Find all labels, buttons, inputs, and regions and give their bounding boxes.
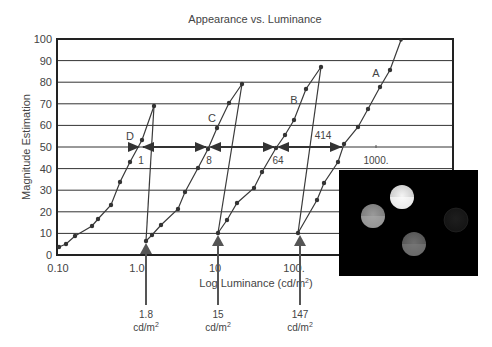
svg-text:10: 10 bbox=[40, 227, 52, 239]
svg-text:cd/m2: cd/m2 bbox=[205, 321, 231, 333]
y-tick-labels: 0 10 20 30 40 50 60 70 80 90 100 bbox=[34, 33, 52, 261]
svg-text:20: 20 bbox=[40, 206, 52, 218]
svg-text:1: 1 bbox=[138, 155, 144, 166]
svg-text:0: 0 bbox=[46, 249, 52, 261]
label-C: C bbox=[208, 112, 216, 124]
adaptation-arrows bbox=[140, 235, 306, 305]
svg-text:cd/m2: cd/m2 bbox=[287, 321, 313, 333]
svg-text:1000.: 1000. bbox=[363, 155, 388, 166]
svg-text:1.8: 1.8 bbox=[139, 309, 153, 320]
curve-labels: D C B A bbox=[126, 67, 380, 142]
svg-text:cd/m2: cd/m2 bbox=[133, 321, 159, 333]
x-tick-labels: 0.10 1.0 10 100. bbox=[47, 262, 304, 274]
label-A: A bbox=[372, 67, 380, 79]
svg-text:30: 30 bbox=[40, 184, 52, 196]
svg-text:40: 40 bbox=[40, 163, 52, 175]
svg-text:60: 60 bbox=[40, 119, 52, 131]
appearance-luminance-chart: Appearance vs. Luminance Magnitude Estim… bbox=[0, 0, 492, 347]
svg-text:64: 64 bbox=[272, 155, 284, 166]
svg-text:50: 50 bbox=[40, 141, 52, 153]
label-B: B bbox=[290, 94, 297, 106]
curve-B bbox=[218, 67, 321, 233]
svg-text:100: 100 bbox=[34, 33, 52, 45]
svg-text:8: 8 bbox=[206, 155, 212, 166]
inset-photo bbox=[339, 170, 478, 276]
curve-C bbox=[146, 84, 242, 241]
adaptation-labels: 1.8 cd/m2 15 cd/m2 147 cd/m2 bbox=[133, 309, 313, 333]
svg-text:70: 70 bbox=[40, 98, 52, 110]
disc-dark bbox=[444, 208, 468, 232]
svg-text:15: 15 bbox=[212, 309, 224, 320]
svg-text:80: 80 bbox=[40, 76, 52, 88]
return-B-A bbox=[298, 67, 321, 233]
label-D: D bbox=[126, 130, 134, 142]
svg-text:1.0: 1.0 bbox=[129, 262, 144, 274]
curve-D bbox=[59, 106, 154, 247]
x-axis-label: Log Luminance (cd/m2) bbox=[199, 277, 312, 289]
svg-text:90: 90 bbox=[40, 55, 52, 67]
chart-title: Appearance vs. Luminance bbox=[188, 13, 321, 25]
return-C-B bbox=[218, 84, 242, 233]
y-axis-label: Magnitude Estimation bbox=[20, 94, 32, 200]
svg-text:100.: 100. bbox=[283, 262, 304, 274]
svg-text:147: 147 bbox=[292, 309, 309, 320]
svg-text:0.10: 0.10 bbox=[47, 262, 68, 274]
svg-text:414: 414 bbox=[315, 130, 332, 141]
svg-text:10: 10 bbox=[209, 262, 221, 274]
